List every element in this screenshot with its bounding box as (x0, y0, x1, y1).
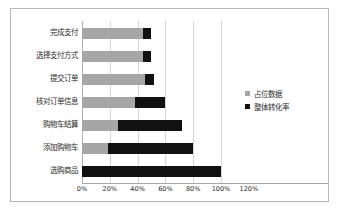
x-tick-label: 120% (236, 185, 262, 194)
gridline-80 (193, 21, 194, 183)
legend-label: 整体转化率 (254, 101, 289, 112)
bar-row: 添加购物车 (82, 143, 193, 154)
category-label: 选购商品 (50, 165, 78, 177)
category-label: 完成支付 (50, 27, 78, 39)
bar-segment-placeholder (82, 143, 108, 154)
bar-row: 核对订单信息 (82, 97, 165, 108)
category-label: 选择支付方式 (36, 50, 78, 62)
bar-segment-placeholder (82, 120, 118, 131)
bar-segment-placeholder (82, 28, 143, 39)
legend-swatch-icon (245, 91, 250, 96)
bar-row: 完成支付 (82, 28, 151, 39)
bar-row: 选择支付方式 (82, 51, 151, 62)
bar-segment-conversion (82, 166, 221, 177)
bar-segment-conversion (145, 74, 155, 85)
category-label: 购物车结算 (43, 119, 78, 131)
bar-segment-conversion (143, 51, 151, 62)
legend-swatch-icon (245, 104, 250, 109)
x-tick-label: 80% (180, 185, 206, 194)
chart-legend: 占位数据 整体转化率 (245, 87, 323, 113)
bar-row: 选购商品 (82, 166, 221, 177)
legend-label: 占位数据 (254, 88, 282, 99)
bar-segment-placeholder (82, 74, 145, 85)
category-label: 核对订单信息 (36, 96, 78, 108)
legend-item-placeholder[interactable]: 占位数据 (245, 87, 323, 100)
x-tick-label: 40% (125, 185, 151, 194)
bar-row: 购物车结算 (82, 120, 182, 131)
plot-inner: 完成支付 选择支付方式 提交订单 核对订单信息 购物车结算 添加购物车 (82, 21, 222, 183)
bar-segment-conversion (135, 97, 166, 108)
gridline-60 (165, 21, 166, 183)
gridline-100 (221, 21, 222, 183)
x-tick-label: 0% (69, 185, 95, 194)
bar-segment-placeholder (82, 51, 143, 62)
x-tick-label: 100% (208, 185, 234, 194)
chart-frame: 完成支付 选择支付方式 提交订单 核对订单信息 购物车结算 添加购物车 (10, 8, 329, 202)
legend-item-conversion[interactable]: 整体转化率 (245, 100, 323, 113)
x-axis-line (82, 183, 328, 184)
category-label: 提交订单 (50, 73, 78, 85)
bar-segment-conversion (118, 120, 182, 131)
x-tick-label: 20% (97, 185, 123, 194)
x-tick-label: 60% (152, 185, 178, 194)
bar-segment-placeholder (82, 97, 135, 108)
category-label: 添加购物车 (43, 142, 78, 154)
plot-area: 完成支付 选择支付方式 提交订单 核对订单信息 购物车结算 添加购物车 (11, 9, 328, 201)
bar-segment-conversion (108, 143, 193, 154)
bar-row: 提交订单 (82, 74, 154, 85)
bar-segment-conversion (143, 28, 151, 39)
